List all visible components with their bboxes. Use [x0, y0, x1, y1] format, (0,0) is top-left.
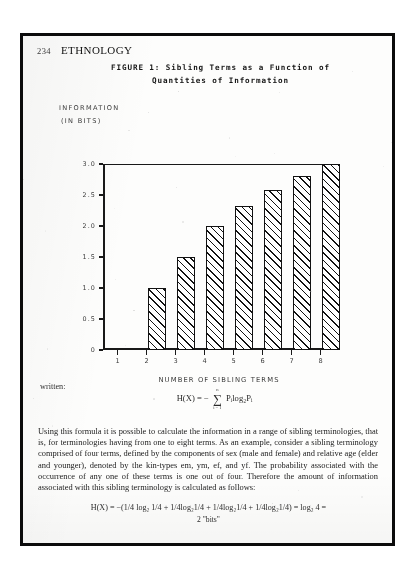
plot-top-rule	[103, 164, 335, 165]
scanned-page: 234ETHNOLOGY FIGURE 1: Sibling Terms as …	[20, 33, 395, 546]
y-axis-title: INFORMATION (IN BITS)	[59, 102, 120, 127]
y-axis-tick-label: 1.0	[83, 284, 96, 292]
bar	[235, 206, 253, 350]
y-axis-title-line-2: (IN BITS)	[59, 115, 120, 128]
y-axis-tick	[99, 349, 103, 350]
x-axis-tick	[204, 350, 205, 355]
x-axis-tick	[233, 350, 234, 355]
x-axis-tick-label: 7	[289, 357, 293, 365]
worked-example-line-2: 2 "bits"	[35, 514, 382, 525]
summation-symbol: ∑ni = 1	[213, 394, 222, 404]
x-axis-tick-label: 1	[115, 357, 119, 365]
y-axis-tick-label: 3.0	[83, 160, 96, 168]
entropy-formula: H(X) = − ∑ni = 1 Pᵢlog₂Pᵢ	[23, 393, 392, 404]
y-axis-tick-label: 2.5	[83, 191, 96, 199]
figure-caption: FIGURE 1: Sibling Terms as a Function of…	[23, 62, 392, 87]
y-axis-tick	[99, 194, 103, 195]
bar	[322, 164, 340, 350]
summation-lower-limit: i = 1	[213, 406, 221, 410]
running-head: 234ETHNOLOGY	[37, 44, 132, 56]
x-axis-tick	[117, 350, 118, 355]
bar	[293, 176, 311, 350]
x-axis-tick	[262, 350, 263, 355]
plot-area: 3.02.52.01.51.00.50 12345678 NUMBER OF S…	[103, 164, 335, 350]
bar	[177, 257, 195, 350]
body-paragraph: Using this formula it is possible to cal…	[38, 426, 378, 493]
worked-example-formula: H(X) = −(1/4 log₂ 1/4 + 1/4log₂1/4 + 1/4…	[35, 502, 382, 525]
x-axis-tick-label: 2	[144, 357, 148, 365]
y-axis-tick	[99, 256, 103, 257]
y-axis-tick	[99, 287, 103, 288]
y-axis-title-line-1: INFORMATION	[59, 104, 120, 112]
summation-upper-limit: n	[216, 388, 218, 392]
x-axis-tick	[291, 350, 292, 355]
worked-example-line-1: H(X) = −(1/4 log₂ 1/4 + 1/4log₂1/4 + 1/4…	[91, 503, 326, 512]
x-axis-title: NUMBER OF SIBLING TERMS	[103, 376, 335, 384]
formula-rhs: Pᵢlog₂Pᵢ	[226, 393, 252, 403]
y-axis-line	[103, 164, 105, 350]
bar-chart: INFORMATION (IN BITS) 3.02.52.01.51.00.5…	[57, 102, 375, 402]
figure-caption-line-1: FIGURE 1: Sibling Terms as a Function of	[111, 63, 330, 72]
formula-minus-sign: −	[204, 393, 209, 403]
x-axis-tick-label: 8	[318, 357, 322, 365]
formula-lhs: H(X) =	[177, 393, 202, 403]
figure-caption-line-2: Quantities of Information	[49, 75, 392, 88]
bar	[264, 190, 282, 350]
x-axis-tick	[146, 350, 147, 355]
journal-name: ETHNOLOGY	[61, 44, 132, 56]
y-axis-tick	[99, 225, 103, 226]
x-axis-tick	[175, 350, 176, 355]
x-axis-tick-label: 4	[202, 357, 206, 365]
bar	[148, 288, 166, 350]
y-axis-tick-label: 1.5	[83, 253, 96, 261]
x-axis-tick	[320, 350, 321, 355]
page-folio-number: 234	[37, 46, 51, 56]
x-axis-tick-label: 3	[173, 357, 177, 365]
y-axis-tick-label: 0	[91, 346, 96, 354]
x-axis-tick-label: 5	[231, 357, 235, 365]
y-axis-tick-label: 2.0	[83, 222, 96, 230]
written-label: written:	[40, 382, 65, 391]
y-axis-tick-label: 0.5	[83, 315, 96, 323]
y-axis-tick	[99, 318, 103, 319]
x-axis-tick-label: 6	[260, 357, 264, 365]
y-axis-tick	[99, 163, 103, 164]
bar	[206, 226, 224, 350]
